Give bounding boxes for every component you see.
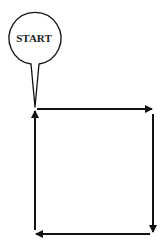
start-bubble: START — [9, 12, 61, 107]
start-label: START — [16, 32, 52, 44]
loop-diagram: START — [0, 0, 168, 250]
start-bubble-outline — [9, 12, 61, 107]
